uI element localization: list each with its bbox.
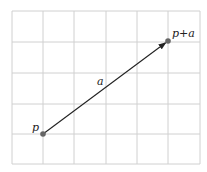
vector-diagram: p p+a a <box>0 0 207 172</box>
label-p: p <box>32 121 39 134</box>
point-p-plus-a <box>165 38 171 44</box>
label-a: a <box>97 75 104 88</box>
label-p-plus-a: p+a <box>172 27 195 40</box>
vector-a-arrow <box>43 43 166 134</box>
point-p <box>40 131 46 137</box>
